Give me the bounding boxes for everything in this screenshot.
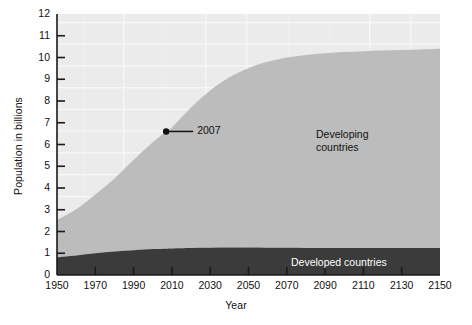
y-axis-tick-label: 7 <box>20 116 50 128</box>
y-axis-tick-label: 9 <box>20 72 50 84</box>
y-axis-tick-label: 1 <box>20 246 50 258</box>
series-label-developed: Developed countries <box>291 256 387 269</box>
annotation-2007-label: 2007 <box>197 124 220 136</box>
series-label-developing: Developing countries <box>316 128 369 153</box>
y-axis-tick-label: 6 <box>20 138 50 150</box>
y-axis-tick-label: 3 <box>20 203 50 215</box>
population-projection-chart: Population in billions Year 012345678910… <box>0 0 472 325</box>
y-axis-tick-label: 8 <box>20 94 50 106</box>
y-axis-tick-label: 11 <box>20 29 50 41</box>
y-axis-tick-label: 12 <box>20 7 50 19</box>
y-axis-tick-label: 10 <box>20 51 50 63</box>
x-axis-tick-label: 2150 <box>416 279 464 291</box>
y-axis-tick-label: 4 <box>20 181 50 193</box>
series-label-developing-line1: Developing <box>316 128 369 141</box>
y-axis-tick-label: 2 <box>20 225 50 237</box>
y-axis-tick-label: 5 <box>20 159 50 171</box>
series-label-developing-line2: countries <box>316 141 369 154</box>
plot-area <box>0 0 472 325</box>
